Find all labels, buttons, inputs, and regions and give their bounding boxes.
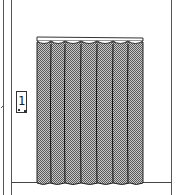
room-number-sign[interactable]: 1 <box>16 91 27 113</box>
room-number: 1 <box>17 94 26 108</box>
sign-screw <box>18 109 20 111</box>
sign-screw <box>24 110 26 112</box>
scene: 1 <box>0 0 178 195</box>
curtain-rod <box>37 37 143 41</box>
curtain[interactable] <box>37 37 143 185</box>
wall-mark <box>1 106 3 108</box>
